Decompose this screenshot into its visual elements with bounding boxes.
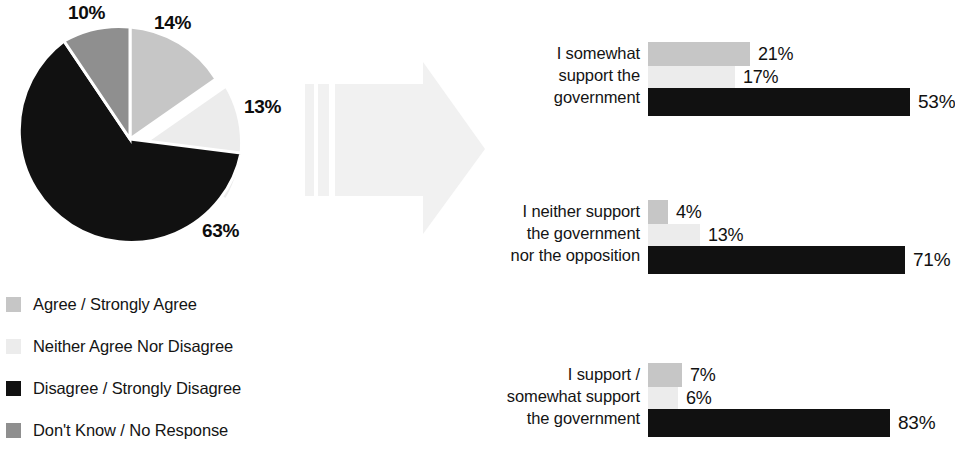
bar-value-agree: 21% [758,44,793,65]
legend-item-agree: Agree / Strongly Agree [6,283,326,325]
bar-agree [648,200,668,224]
bar-group-label-line-2: support the [410,64,640,86]
bar-disagree [648,246,905,274]
legend-label-disagree: Disagree / Strongly Disagree [33,379,241,398]
bar-rows: 21% 17% 53% [648,42,948,116]
bar-group-label: I somewhat support the government [410,42,640,108]
bar-group-label-line-2: the government [410,222,640,244]
legend-item-disagree: Disagree / Strongly Disagree [6,367,326,409]
bar-row: 13% [648,224,948,246]
pie-slice-label-dontknow: 10% [68,2,105,24]
legend-swatch-icon-dontknow [6,423,21,438]
legend: Agree / Strongly Agree Neither Agree Nor… [6,283,326,451]
bar-value-agree: 4% [676,202,702,223]
bar-group-label-line-1: I somewhat [410,42,640,64]
bar-value-disagree: 53% [918,91,955,113]
bar-neither [648,66,735,88]
legend-label-agree: Agree / Strongly Agree [33,295,197,314]
bar-neither [648,224,700,246]
bar-row: 6% [648,387,948,409]
bar-value-neither: 6% [686,388,712,409]
bar-group-label-line-1: I support / [410,363,640,385]
bar-neither [648,387,678,409]
pie-chart-panel: 10% 14% 13% 63% [0,0,300,270]
pie-slice-label-agree: 14% [154,12,191,34]
bar-group-label: I support / somewhat support the governm… [410,363,640,429]
bar-row: 53% [648,88,948,116]
bar-rows: 4% 13% 71% [648,200,948,274]
bar-row: 21% [648,42,948,66]
bar-row: 83% [648,409,948,437]
legend-item-dontknow: Don't Know / No Response [6,409,326,451]
bar-row: 17% [648,66,948,88]
bar-value-disagree: 83% [898,412,935,434]
legend-label-dontknow: Don't Know / No Response [33,421,228,440]
pie-slice-label-disagree: 63% [202,220,239,242]
legend-swatch-icon-neither [6,339,21,354]
bar-row: 7% [648,363,948,387]
bar-value-agree: 7% [690,365,716,386]
legend-item-neither: Neither Agree Nor Disagree [6,325,326,367]
bar-group-label-line-3: nor the opposition [410,244,640,266]
bar-value-neither: 13% [708,225,743,246]
legend-swatch-icon-agree [6,297,21,312]
bar-value-neither: 17% [743,67,778,88]
pie-slice-label-neither: 13% [244,96,281,118]
bar-group-label-line-1: I neither support [410,200,640,222]
bar-agree [648,363,682,387]
bar-group-support-somewhat-support: I support / somewhat support the governm… [410,363,950,455]
bar-group-label-line-2: somewhat support [410,385,640,407]
bar-disagree [648,409,890,437]
bar-row: 4% [648,200,948,224]
bar-group-somewhat-support: I somewhat support the government 21% 17… [410,42,950,142]
bar-group-label-line-3: government [410,86,640,108]
legend-label-neither: Neither Agree Nor Disagree [33,337,233,356]
legend-swatch-icon-disagree [6,381,21,396]
bar-disagree [648,88,910,116]
bar-value-disagree: 71% [913,249,950,271]
bar-group-label-line-3: the government [410,407,640,429]
bar-row: 71% [648,246,948,274]
bar-group-neither-support: I neither support the government nor the… [410,200,950,300]
bar-rows: 7% 6% 83% [648,363,948,437]
bar-agree [648,42,750,66]
bar-group-label: I neither support the government nor the… [410,200,640,266]
